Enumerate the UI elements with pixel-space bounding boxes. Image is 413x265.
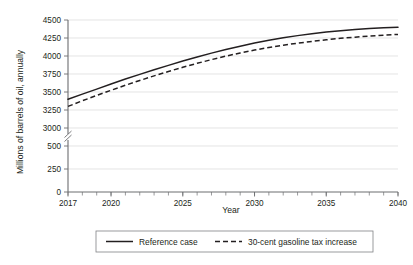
y-tick-label: 0 (56, 188, 61, 197)
y-tick-label: 250 (47, 165, 61, 174)
y-tick-label: 4250 (43, 34, 62, 43)
y-axis-tick-labels-group: 02505003000325035003750400042504500 (43, 16, 62, 197)
x-tick-label: 2025 (174, 199, 193, 208)
x-tick-label: 2017 (59, 199, 78, 208)
x-tick-label: 2040 (389, 199, 408, 208)
y-tick-label: 3500 (43, 88, 62, 97)
y-tick-label: 3750 (43, 70, 62, 79)
series-line-gasoline-tax (68, 34, 398, 106)
y-tick-label: 4500 (43, 16, 62, 25)
x-tick-label: 2030 (245, 199, 264, 208)
gridlines-group (68, 20, 398, 169)
y-tick-label: 3000 (43, 124, 62, 133)
x-tick-label: 2020 (102, 199, 121, 208)
line-chart: 02505003000325035003750400042504500 2017… (0, 0, 413, 265)
y-axis-ticks-group (64, 20, 68, 192)
y-tick-label: 500 (47, 142, 61, 151)
y-tick-label: 4000 (43, 52, 62, 61)
y-axis-title: Millions of barrels of oil, annually (15, 49, 25, 174)
legend-label-reference-case: Reference case (139, 237, 198, 247)
legend-label-gasoline-tax: 30-cent gasoline tax increase (248, 237, 357, 247)
legend: Reference case 30-cent gasoline tax incr… (96, 231, 373, 252)
chart-container: 02505003000325035003750400042504500 2017… (0, 0, 413, 265)
x-axis-title: Year (222, 205, 240, 215)
x-tick-label: 2035 (317, 199, 336, 208)
x-axis-major-ticks-group (68, 192, 398, 197)
y-tick-label: 3250 (43, 106, 62, 115)
